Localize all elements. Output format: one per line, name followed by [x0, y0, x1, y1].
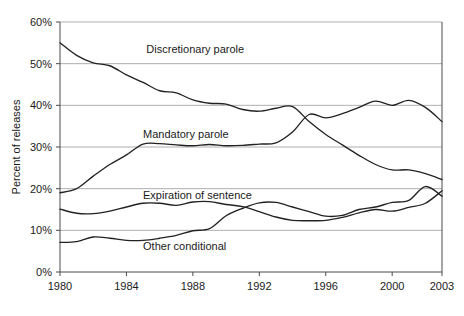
x-tick-label: 2000: [380, 280, 404, 292]
y-axis-ticks: [56, 22, 60, 272]
series-label-1: Mandatory parole: [143, 128, 229, 140]
series-label-3: Other conditional: [143, 240, 226, 252]
x-axis-tick-labels: 1980198419881992199620002003: [48, 280, 454, 292]
y-tick-label: 30%: [30, 141, 52, 153]
y-axis-title: Percent of releases: [10, 99, 22, 194]
y-tick-label: 60%: [30, 16, 52, 28]
chart-container: 0%10%20%30%40%50%60% 1980198419881992199…: [0, 0, 464, 316]
y-tick-label: 0%: [36, 266, 52, 278]
y-tick-label: 10%: [30, 224, 52, 236]
y-tick-label: 50%: [30, 58, 52, 70]
x-tick-label: 1984: [114, 280, 138, 292]
line-chart: 0%10%20%30%40%50%60% 1980198419881992199…: [0, 0, 464, 316]
y-tick-label: 20%: [30, 183, 52, 195]
x-tick-label: 1996: [313, 280, 337, 292]
y-axis-tick-labels: 0%10%20%30%40%50%60%: [30, 16, 52, 278]
y-tick-label: 40%: [30, 99, 52, 111]
x-tick-label: 1980: [48, 280, 72, 292]
series-annotations: Discretionary paroleMandatory paroleExpi…: [143, 43, 252, 252]
series-line-1: [60, 100, 442, 193]
series-label-0: Discretionary parole: [146, 43, 244, 55]
series-label-2: Expiration of sentence: [143, 189, 252, 201]
x-axis-ticks: [60, 272, 442, 276]
x-tick-label: 2003: [430, 280, 454, 292]
x-tick-label: 1992: [247, 280, 271, 292]
x-tick-label: 1988: [181, 280, 205, 292]
series-lines: [60, 43, 442, 243]
